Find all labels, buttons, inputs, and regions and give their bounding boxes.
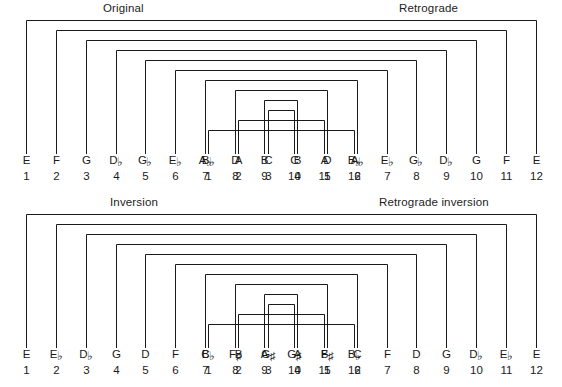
order-number-right-5: 5 (324, 169, 330, 183)
note-label-right-8: G♭ (409, 153, 424, 167)
bracket-path-12 (209, 131, 355, 147)
flat-icon: ♭ (507, 350, 513, 362)
bracket-path-11 (239, 315, 325, 341)
flat-icon: ♭ (388, 156, 394, 168)
flat-icon: ♭ (477, 350, 483, 362)
note-label-left-4: D♭ (109, 153, 123, 167)
bracket-path-12 (209, 325, 355, 341)
flat-icon: ♭ (209, 350, 215, 362)
bracket-path-4 (117, 51, 447, 147)
note-label-left-2: F (53, 153, 60, 167)
note-label-right-8: D (412, 347, 420, 361)
panel-title-original: Original (103, 1, 144, 15)
note-label-left-5: D (141, 347, 149, 361)
order-number-right-9: 9 (443, 363, 449, 377)
note-label-right-2: B (235, 347, 243, 361)
bracket-path-9 (265, 101, 298, 147)
order-number-right-2: 2 (235, 363, 241, 377)
order-number-left-3: 3 (83, 169, 89, 183)
order-number-left-6: 6 (172, 363, 178, 377)
panel-title-inversion: Inversion (110, 195, 158, 209)
panel-title-retrograde: Retrograde (399, 1, 458, 15)
bracket-path-4 (117, 245, 447, 341)
order-number-right-3: 3 (265, 169, 271, 183)
note-label-right-11: F (503, 153, 510, 167)
sharp-icon: ♯ (270, 350, 276, 362)
order-number-right-4: 4 (294, 169, 300, 183)
panel-title-retrograde-inversion: Retrograde inversion (379, 195, 489, 209)
twelve-tone-row-figure: Original Retrograde E1F2G3D♭4G♭5E♭6A♭7D8… (0, 0, 562, 387)
note-label-right-9: G (442, 347, 451, 361)
bracket-path-11 (239, 121, 325, 147)
flat-icon: ♭ (57, 350, 63, 362)
order-number-right-11: 11 (501, 363, 513, 377)
note-label-left-3: G (82, 153, 91, 167)
bracket-path-10 (269, 305, 295, 341)
bracket-path-9 (265, 295, 298, 341)
note-label-right-2: A (235, 153, 243, 167)
note-label-left-6: F (172, 347, 179, 361)
order-number-right-8: 8 (413, 169, 419, 183)
order-number-right-12: 12 (530, 363, 543, 377)
bracket-svg-inversion (0, 212, 562, 340)
panel-original-retrograde: Original Retrograde E1F2G3D♭4G♭5E♭6A♭7D8… (0, 0, 562, 193)
order-number-right-6: 6 (354, 363, 360, 377)
flat-icon: ♭ (87, 350, 93, 362)
order-number-right-12: 12 (530, 169, 543, 183)
note-axis-original: E1F2G3D♭4G♭5E♭6A♭7D8B9C10A11B♭12B♭1A2C3B… (0, 146, 562, 193)
order-number-left-5: 5 (142, 363, 148, 377)
order-number-right-5: 5 (324, 363, 330, 377)
order-number-right-2: 2 (235, 169, 241, 183)
order-number-left-2: 2 (53, 363, 59, 377)
note-label-left-4: G (112, 347, 121, 361)
flat-icon: ♭ (176, 156, 182, 168)
order-number-right-4: 4 (294, 363, 300, 377)
note-label-right-5: F♯ (321, 347, 334, 361)
note-label-right-9: D♭ (439, 153, 453, 167)
order-number-right-7: 7 (384, 169, 390, 183)
bracket-arcs-original (0, 18, 562, 146)
note-label-right-7: F (384, 347, 391, 361)
note-label-left-3: D♭ (79, 347, 93, 361)
note-label-left-1: E (23, 153, 31, 167)
order-number-right-11: 11 (501, 169, 513, 183)
bracket-path-6 (176, 265, 388, 341)
order-number-right-10: 10 (470, 169, 483, 183)
note-label-right-4: A (294, 347, 302, 361)
bracket-path-5 (146, 255, 417, 341)
note-label-left-2: E♭ (50, 347, 64, 361)
order-number-left-3: 3 (83, 363, 89, 377)
order-number-left-5: 5 (142, 169, 148, 183)
bracket-path-2 (57, 225, 507, 341)
flat-icon: ♭ (209, 156, 215, 168)
bracket-path-1 (27, 21, 537, 147)
bracket-path-1 (27, 215, 537, 341)
order-number-right-7: 7 (384, 363, 390, 377)
note-label-right-1: B♭ (202, 347, 216, 361)
note-label-right-1: B♭ (202, 153, 216, 167)
panel-inversion-retrograde-inversion: Inversion Retrograde inversion E1E♭2D♭3G… (0, 194, 562, 387)
order-number-left-4: 4 (113, 363, 119, 377)
note-label-right-11: E♭ (500, 347, 514, 361)
bracket-arcs-inversion (0, 212, 562, 340)
order-number-right-1: 1 (205, 169, 211, 183)
flat-icon: ♭ (146, 156, 152, 168)
flat-icon: ♭ (447, 156, 453, 168)
note-label-right-5: D (323, 153, 331, 167)
note-label-left-5: G♭ (138, 153, 153, 167)
note-label-right-10: D♭ (469, 347, 483, 361)
flat-icon: ♭ (417, 156, 423, 168)
bracket-svg-original (0, 18, 562, 146)
order-number-left-4: 4 (113, 169, 119, 183)
order-number-right-1: 1 (205, 363, 211, 377)
sharp-icon: ♯ (328, 350, 334, 362)
bracket-path-2 (57, 31, 507, 147)
order-number-right-10: 10 (470, 363, 483, 377)
order-number-right-6: 6 (354, 169, 360, 183)
flat-icon: ♭ (117, 156, 123, 168)
bracket-path-5 (146, 61, 417, 147)
note-label-right-12: E (533, 347, 541, 361)
bracket-path-6 (176, 71, 388, 147)
order-number-left-1: 1 (23, 169, 29, 183)
note-label-right-7: E♭ (381, 153, 395, 167)
